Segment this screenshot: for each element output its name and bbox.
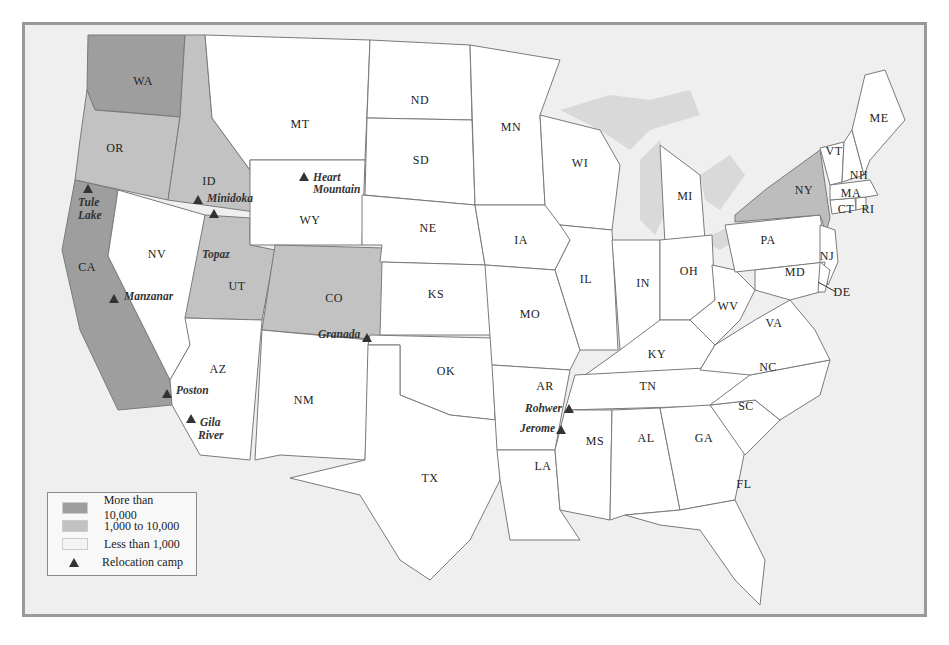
legend: More than 10,000 1,000 to 10,000 Less th… <box>47 492 197 576</box>
legend-item: Relocation camp <box>56 553 188 571</box>
svg-text:IL: IL <box>580 272 592 286</box>
svg-text:SD: SD <box>413 153 429 167</box>
state-co <box>262 245 385 340</box>
svg-text:MN: MN <box>501 120 521 134</box>
svg-text:ME: ME <box>870 111 889 125</box>
legend-item: Less than 1,000 <box>56 535 188 553</box>
svg-text:Granada: Granada <box>318 328 360 340</box>
legend-label: 1,000 to 10,000 <box>104 519 179 534</box>
svg-text:CT: CT <box>838 202 855 216</box>
svg-text:NE: NE <box>420 221 437 235</box>
svg-text:Rohwer: Rohwer <box>524 402 563 414</box>
svg-text:OH: OH <box>680 264 698 278</box>
svg-text:KS: KS <box>428 287 444 301</box>
svg-text:AL: AL <box>638 431 655 445</box>
swatch-mid <box>62 520 88 532</box>
svg-text:MT: MT <box>291 117 310 131</box>
lake-huron <box>700 155 745 210</box>
svg-text:OK: OK <box>437 364 455 378</box>
svg-text:WV: WV <box>718 299 739 313</box>
svg-text:MS: MS <box>586 434 604 448</box>
svg-text:VA: VA <box>766 316 783 330</box>
svg-text:NM: NM <box>294 393 314 407</box>
swatch-high <box>62 502 88 514</box>
swatch-low <box>62 538 88 550</box>
svg-text:Tule: Tule <box>78 196 99 208</box>
svg-text:VT: VT <box>826 144 843 158</box>
svg-text:GA: GA <box>695 431 713 445</box>
svg-text:AR: AR <box>536 379 554 393</box>
svg-text:Manzanar: Manzanar <box>123 290 174 302</box>
svg-text:NY: NY <box>795 183 813 197</box>
svg-text:MD: MD <box>785 265 805 279</box>
state-fl <box>625 500 765 605</box>
legend-label: Less than 1,000 <box>104 537 180 552</box>
svg-text:IN: IN <box>636 276 650 290</box>
svg-text:ND: ND <box>411 93 429 107</box>
svg-text:MA: MA <box>841 186 861 200</box>
svg-text:LA: LA <box>535 459 552 473</box>
svg-text:DE: DE <box>834 285 851 299</box>
svg-text:Gila: Gila <box>200 416 221 428</box>
svg-text:Topaz: Topaz <box>202 248 230 261</box>
svg-text:Heart: Heart <box>312 171 341 183</box>
state-nd <box>367 40 472 120</box>
svg-text:River: River <box>197 429 224 441</box>
svg-text:Lake: Lake <box>77 209 102 221</box>
svg-text:PA: PA <box>760 233 775 247</box>
svg-text:CO: CO <box>325 291 343 305</box>
legend-item: 1,000 to 10,000 <box>56 517 188 535</box>
svg-text:UT: UT <box>229 279 246 293</box>
svg-text:NV: NV <box>148 247 166 261</box>
svg-text:SC: SC <box>738 399 754 413</box>
svg-text:Minidoka: Minidoka <box>206 192 253 204</box>
svg-text:ID: ID <box>202 174 216 188</box>
svg-text:KY: KY <box>648 347 666 361</box>
svg-text:MO: MO <box>520 307 540 321</box>
svg-text:IA: IA <box>514 233 528 247</box>
svg-text:RI: RI <box>862 202 875 216</box>
triangle-icon <box>69 558 79 567</box>
svg-text:TN: TN <box>640 379 657 393</box>
svg-text:NH: NH <box>850 168 868 182</box>
svg-text:TX: TX <box>422 471 439 485</box>
state-ms <box>555 410 612 520</box>
svg-text:CA: CA <box>78 260 96 274</box>
svg-text:FL: FL <box>736 477 751 491</box>
camp-marker-icon <box>209 209 219 218</box>
svg-text:WI: WI <box>572 156 588 170</box>
svg-text:WA: WA <box>133 74 153 88</box>
legend-label: Relocation camp <box>102 555 183 570</box>
svg-text:MI: MI <box>677 189 693 203</box>
svg-text:WY: WY <box>300 213 321 227</box>
svg-text:OR: OR <box>106 141 124 155</box>
svg-text:NC: NC <box>759 360 777 374</box>
state-wy <box>250 160 365 245</box>
svg-text:Poston: Poston <box>176 384 209 396</box>
legend-item: More than 10,000 <box>56 499 188 517</box>
svg-text:Mountain: Mountain <box>312 183 360 195</box>
svg-text:AZ: AZ <box>210 362 227 376</box>
svg-text:NJ: NJ <box>820 249 834 263</box>
svg-text:Jerome: Jerome <box>519 422 555 434</box>
